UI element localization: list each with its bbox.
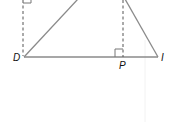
label-I: I bbox=[161, 52, 164, 63]
label-D: D bbox=[13, 52, 20, 63]
right-angle-mark-top-left bbox=[23, 0, 31, 3]
right-side-segment bbox=[125, 0, 158, 57]
left-side-segment bbox=[24, 0, 78, 57]
geometry-diagram: D P I bbox=[0, 0, 169, 130]
label-P: P bbox=[119, 60, 126, 71]
right-angle-mark-P bbox=[115, 49, 123, 57]
